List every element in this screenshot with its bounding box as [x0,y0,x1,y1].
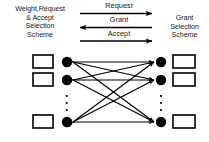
input-queue-box-3 [33,115,53,128]
output-port-node-3 [156,117,166,127]
input-queue-box-2 [33,73,53,86]
input-port-node-1 [62,57,72,67]
right-vertical-ellipsis-icon [160,95,162,111]
output-queue-box-1 [173,55,195,68]
right-port-nodes [156,57,166,127]
left-port-nodes [62,57,72,127]
right-queue-boxes [173,55,195,128]
diagram-canvas: Weight,Request & Accept Selection Scheme… [0,0,209,142]
left-vertical-ellipsis-icon [66,95,68,111]
bipartite-edges [73,62,154,122]
input-port-node-2 [62,75,72,85]
input-port-node-3 [62,117,72,127]
diagram-graphics [0,0,209,142]
output-queue-box-2 [173,73,195,86]
output-queue-box-3 [173,115,195,128]
output-port-node-2 [156,75,166,85]
left-queue-boxes [33,55,53,128]
input-queue-box-1 [33,55,53,68]
output-port-node-1 [156,57,166,67]
